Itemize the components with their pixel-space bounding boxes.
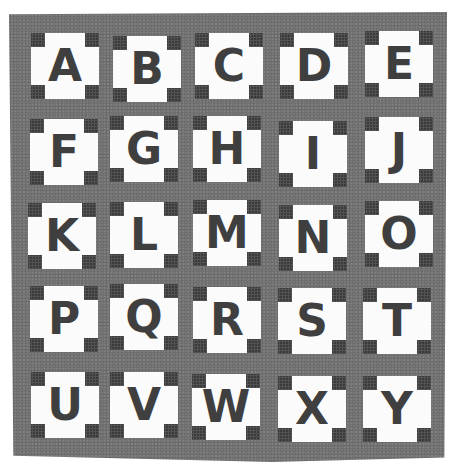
quilt-block-s: S bbox=[278, 288, 346, 354]
quilt-block-y: Y bbox=[363, 376, 431, 442]
block-letter: K bbox=[28, 203, 96, 269]
quilt-block-j: J bbox=[365, 117, 433, 183]
quilt-block-m: M bbox=[193, 200, 261, 266]
block-letter: Q bbox=[110, 284, 178, 350]
quilt-block-e: E bbox=[365, 31, 433, 97]
block-letter: V bbox=[110, 372, 178, 438]
block-letter: T bbox=[363, 288, 431, 354]
block-letter: C bbox=[195, 33, 263, 99]
quilt-block-q: Q bbox=[110, 284, 178, 350]
quilt-block-i: I bbox=[279, 121, 347, 187]
quilt-block-v: V bbox=[110, 372, 178, 438]
quilt-block-u: U bbox=[31, 372, 99, 438]
block-letter: R bbox=[193, 287, 261, 353]
block-letter: X bbox=[278, 376, 346, 442]
quilt-block-n: N bbox=[279, 205, 347, 271]
quilt-block-c: C bbox=[195, 33, 263, 99]
block-letter: S bbox=[278, 288, 346, 354]
block-letter: D bbox=[280, 33, 348, 99]
quilt-block-f: F bbox=[30, 119, 98, 185]
quilt-block-d: D bbox=[280, 33, 348, 99]
quilt-block-a: A bbox=[31, 33, 99, 99]
block-letter: N bbox=[279, 205, 347, 271]
quilt-block-k: K bbox=[28, 203, 96, 269]
block-letter: A bbox=[31, 33, 99, 99]
block-letter: G bbox=[110, 116, 178, 182]
quilt-block-h: H bbox=[193, 116, 261, 182]
block-letter: B bbox=[113, 36, 181, 102]
block-letter: I bbox=[279, 121, 347, 187]
block-letter: U bbox=[31, 372, 99, 438]
quilt-block-x: X bbox=[278, 376, 346, 442]
block-letter: P bbox=[30, 286, 98, 352]
block-letter: O bbox=[365, 201, 433, 267]
quilt-block-p: P bbox=[30, 286, 98, 352]
block-letter: J bbox=[365, 117, 433, 183]
block-letter: E bbox=[365, 31, 433, 97]
block-letter: F bbox=[30, 119, 98, 185]
quilt-block-r: R bbox=[193, 287, 261, 353]
block-letter: W bbox=[192, 374, 260, 440]
block-letter: M bbox=[193, 200, 261, 266]
quilt-block-w: W bbox=[192, 374, 260, 440]
quilt-block-g: G bbox=[110, 116, 178, 182]
quilt-block-t: T bbox=[363, 288, 431, 354]
block-letter: Y bbox=[363, 376, 431, 442]
block-letter: H bbox=[193, 116, 261, 182]
quilt-block-b: B bbox=[113, 36, 181, 102]
block-letter: L bbox=[110, 202, 178, 268]
quilt-block-o: O bbox=[365, 201, 433, 267]
quilt-block-l: L bbox=[110, 202, 178, 268]
